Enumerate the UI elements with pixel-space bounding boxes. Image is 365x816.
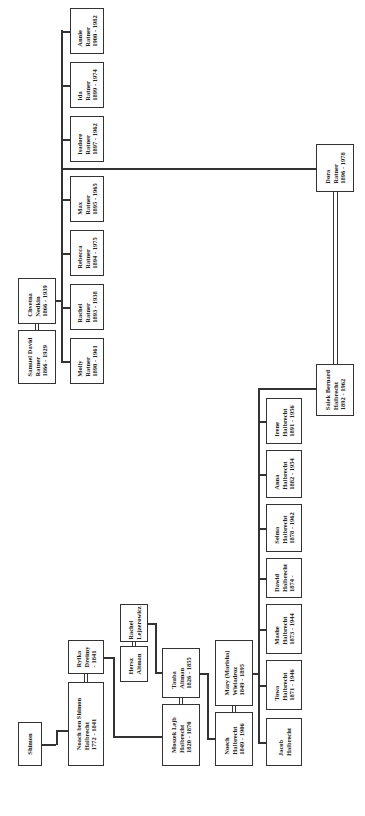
- connector-line: [61, 199, 70, 201]
- connector-line: [258, 578, 266, 580]
- connector-line: [56, 730, 58, 745]
- person-label: AnnaHalbrecht1882 - 1954: [273, 458, 296, 489]
- person-samuel: Samuel DavidRatner1866 - 1929: [18, 330, 56, 384]
- marriage-line: [179, 698, 183, 704]
- person-label: RyfkaDreimy- 1841: [75, 647, 98, 668]
- person-molly: MollyRatner1890 - 1961: [70, 338, 104, 384]
- connector-line: [61, 307, 70, 309]
- person-label: AnnieRatner1900 - 1982: [76, 15, 99, 46]
- children-bus: [258, 388, 260, 742]
- person-label: TowaHalbrecht1871 - 1946: [273, 669, 296, 700]
- connector-line: [258, 388, 316, 390]
- connector-line: [207, 673, 209, 739]
- person-mary: Mary (Marisha)Wieladroz1849 - 1895: [215, 640, 253, 706]
- person-rebecca: RebeccaRatner1894 - 1975: [70, 230, 104, 276]
- person-annie: AnnieRatner1900 - 1982: [70, 8, 104, 54]
- person-label: MollyRatner1890 - 1961: [76, 345, 99, 376]
- connector-line: [113, 657, 115, 737]
- marriage-line: [333, 192, 338, 364]
- person-label: NoechHalbrecht1849 - 1906: [223, 723, 246, 754]
- person-ryfka: RyfkaDreimy- 1841: [68, 640, 104, 674]
- person-towa: TowaHalbrecht1871 - 1946: [266, 660, 302, 710]
- person-irene: IreneHalbrecht1891 - 1956: [266, 398, 302, 444]
- person-shimon: Shimon: [18, 722, 42, 766]
- connector-line: [56, 730, 68, 732]
- person-label: RachelRatner1893 - 1938: [76, 291, 99, 322]
- person-dora: DoraRatner1896 - 1978: [316, 144, 354, 192]
- person-label: JacobHalbrecht: [277, 728, 292, 756]
- person-chvetna: ChvetnaNedkin1866 - 1939: [18, 278, 56, 324]
- person-label: Noach ben ShimonHalbrecht1772 - 1841: [75, 698, 98, 750]
- person-label: MasheHalbrecht1873 - 1944: [273, 613, 296, 644]
- connector-line: [61, 31, 70, 33]
- person-rachel-ratner: RachelRatner1893 - 1938: [70, 284, 104, 330]
- person-label: Moszek LejbHalbrecht1820 - 1870: [170, 717, 193, 753]
- connector-line: [258, 474, 266, 476]
- connector-line: [258, 528, 266, 530]
- person-selma: SelmaHalbrecht1878 - 1962: [266, 504, 302, 552]
- person-noech: NoechHalbrecht1849 - 1906: [215, 712, 253, 766]
- person-label: HerszAltman: [127, 654, 142, 675]
- person-anna: AnnaHalbrecht1882 - 1954: [266, 450, 302, 498]
- person-hersz: HerszAltman: [120, 646, 148, 682]
- connector-line: [42, 744, 56, 746]
- person-mashe: MasheHalbrecht1873 - 1944: [266, 604, 302, 654]
- connector-line: [258, 629, 266, 631]
- person-tauba: TaubaAltman1826 - 1855: [162, 648, 200, 698]
- person-label: ChvetnaNedkin1866 - 1939: [26, 285, 49, 316]
- person-label: DoraRatner1896 - 1978: [324, 152, 347, 183]
- person-jacob: JacobHalbrecht: [266, 718, 302, 766]
- person-max: MaxRatner1895 - 1965: [70, 176, 104, 222]
- person-noach: Noach ben ShimonHalbrecht1772 - 1841: [68, 682, 104, 766]
- marriage-line: [35, 324, 39, 330]
- connector-line: [155, 672, 162, 674]
- person-dawid: DawidHalbrecht1874 -: [266, 558, 302, 598]
- connector-line: [258, 685, 266, 687]
- marriage-line: [232, 706, 236, 712]
- children-bus: [61, 30, 63, 362]
- connector-line: [258, 421, 266, 423]
- connector-line: [61, 361, 70, 363]
- person-label: DawidHalbrecht1874 -: [273, 564, 296, 592]
- connector-line: [61, 85, 70, 87]
- marriage-line: [84, 674, 88, 682]
- person-rachel-lejzerowicz: RachelLejzerowicz: [120, 604, 148, 642]
- connector-line: [61, 253, 70, 255]
- person-label: RachelLejzerowicz: [127, 606, 142, 639]
- person-label: Mary (Marisha)Wieladroz1849 - 1895: [223, 651, 246, 696]
- person-label: Samuel DavidRatner1866 - 1929: [26, 338, 49, 377]
- connector-line: [207, 738, 215, 740]
- person-moszek: Moszek LejbHalbrecht1820 - 1870: [162, 704, 200, 766]
- connector-line: [258, 742, 266, 744]
- person-label: TaubaAltman1826 - 1855: [170, 657, 193, 688]
- connector-line: [61, 139, 70, 141]
- connector-line: [155, 623, 157, 673]
- connector-line: [61, 168, 316, 170]
- person-label: Shimon: [26, 733, 34, 754]
- person-salek: Salek BernardHalbrecht1892 - 1962: [316, 364, 354, 416]
- marriage-line: [132, 642, 136, 646]
- person-label: IsadoreRatner1897 - 1962: [76, 123, 99, 154]
- connector-line: [113, 736, 162, 738]
- person-isadore: IsadoreRatner1897 - 1962: [70, 116, 104, 162]
- person-label: MaxRatner1895 - 1965: [76, 183, 99, 214]
- person-label: SelmaHalbrecht1878 - 1962: [273, 512, 296, 543]
- person-label: RebeccaRatner1894 - 1975: [76, 237, 99, 268]
- person-label: IdaRatner1899 - 1974: [76, 69, 99, 100]
- person-ida: IdaRatner1899 - 1974: [70, 62, 104, 108]
- person-label: IreneHalbrecht1891 - 1956: [273, 405, 296, 436]
- person-label: Salek BernardHalbrecht1892 - 1962: [324, 370, 347, 410]
